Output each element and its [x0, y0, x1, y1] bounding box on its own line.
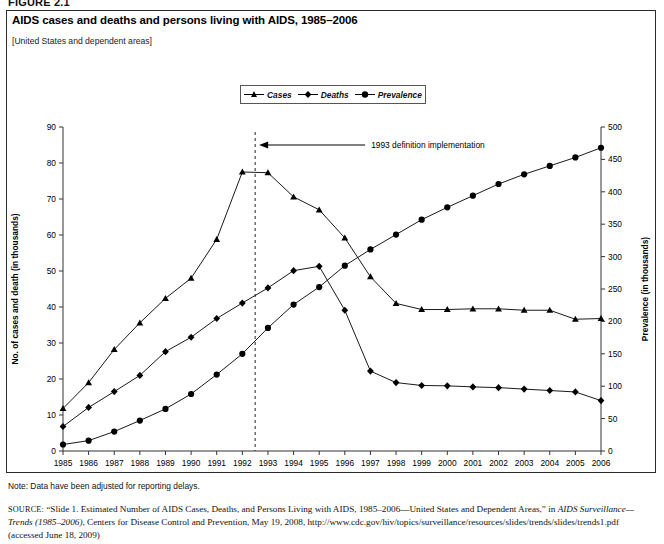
x-axis-tick-label: 1989	[156, 458, 175, 468]
data-point-deaths	[572, 388, 579, 395]
x-axis-tick-label: 1996	[335, 458, 354, 468]
data-point-deaths	[290, 267, 297, 274]
x-axis-tick-label: 2004	[540, 458, 559, 468]
x-axis-tick-label: 1995	[310, 458, 329, 468]
data-point-deaths	[367, 367, 374, 374]
chart-note: Note: Data have been adjusted for report…	[8, 481, 200, 491]
y2-axis-tick-label: 150	[608, 349, 622, 359]
y-axis-tick-label: 40	[47, 302, 57, 312]
y-axis-tick-label: 80	[47, 158, 57, 168]
source-label: SOURCE:	[8, 505, 44, 514]
data-point-deaths	[85, 404, 92, 411]
x-axis-tick-label: 1997	[361, 458, 380, 468]
chart-plot-area: 0102030405060708090050100150200250300350…	[0, 0, 664, 473]
data-point-prevalence	[111, 428, 117, 434]
y2-axis-tick-label: 500	[608, 122, 622, 132]
y2-axis-tick-label: 400	[608, 187, 622, 197]
data-point-prevalence	[367, 246, 373, 252]
x-axis-tick-label: 1992	[233, 458, 252, 468]
data-point-deaths	[418, 382, 425, 389]
source-text-part1: “Slide 1. Estimated Number of AIDS Cases…	[44, 504, 558, 514]
chart-svg: 0102030405060708090050100150200250300350…	[0, 0, 664, 473]
data-point-prevalence	[316, 284, 322, 290]
data-point-prevalence	[162, 406, 168, 412]
data-point-cases	[188, 275, 195, 281]
data-point-cases	[316, 206, 323, 212]
data-point-prevalence	[470, 193, 476, 199]
data-point-deaths	[239, 299, 246, 306]
data-point-prevalence	[598, 145, 604, 151]
data-point-deaths	[60, 423, 67, 430]
x-axis-tick-label: 2006	[592, 458, 611, 468]
data-point-prevalence	[444, 204, 450, 210]
data-point-prevalence	[290, 301, 296, 307]
data-point-deaths	[265, 284, 272, 291]
data-point-cases	[367, 273, 374, 279]
data-point-prevalence	[265, 325, 271, 331]
y-axis-tick-label: 60	[47, 230, 57, 240]
data-point-prevalence	[572, 154, 578, 160]
series-line-deaths	[63, 266, 601, 426]
y-axis-tick-label: 10	[47, 410, 57, 420]
data-point-prevalence	[86, 438, 92, 444]
data-point-deaths	[393, 379, 400, 386]
x-axis-tick-label: 2005	[566, 458, 585, 468]
data-point-prevalence	[342, 263, 348, 269]
figure-page: FIGURE 2.1 AIDS cases and deaths and per…	[0, 0, 664, 544]
data-point-prevalence	[188, 391, 194, 397]
x-axis-tick-label: 2003	[515, 458, 534, 468]
y2-axis-tick-label: 250	[608, 284, 622, 294]
data-point-deaths	[598, 397, 605, 404]
data-point-prevalence	[239, 351, 245, 357]
x-axis-tick-label: 1986	[79, 458, 98, 468]
source-text-part2: , Centers for Disease Control and Preven…	[8, 517, 619, 539]
y-axis-tick-label: 90	[47, 122, 57, 132]
series-line-prevalence	[63, 148, 601, 445]
x-axis-tick-label: 1985	[54, 458, 73, 468]
data-point-deaths	[316, 263, 323, 270]
y2-axis-tick-label: 300	[608, 252, 622, 262]
x-axis-tick-label: 2000	[438, 458, 457, 468]
data-point-prevalence	[419, 217, 425, 223]
data-point-cases	[213, 236, 220, 242]
data-point-deaths	[111, 388, 118, 395]
data-point-deaths	[495, 384, 502, 391]
data-point-deaths	[188, 334, 195, 341]
x-axis-tick-label: 2002	[489, 458, 508, 468]
data-point-prevalence	[547, 163, 553, 169]
y-axis-tick-label: 70	[47, 194, 57, 204]
y-axis-title: No. of cases and death (in thousands)	[10, 213, 20, 364]
x-axis-tick-label: 1993	[259, 458, 278, 468]
x-axis-tick-label: 2001	[464, 458, 483, 468]
y-axis-tick-label: 50	[47, 266, 57, 276]
y2-axis-tick-label: 100	[608, 381, 622, 391]
annotation-arrow-head	[259, 142, 268, 149]
data-point-prevalence	[393, 231, 399, 237]
y2-axis-tick-label: 200	[608, 316, 622, 326]
data-point-deaths	[213, 315, 220, 322]
y2-axis-tick-label: 50	[608, 414, 618, 424]
data-point-deaths	[546, 387, 553, 394]
y2-axis-tick-label: 450	[608, 154, 622, 164]
y-axis-tick-label: 30	[47, 338, 57, 348]
x-axis-tick-label: 1994	[284, 458, 303, 468]
data-point-deaths	[470, 383, 477, 390]
x-axis-tick-label: 1999	[412, 458, 431, 468]
data-point-deaths	[341, 307, 348, 314]
data-point-prevalence	[137, 417, 143, 423]
annotation-label: 1993 definition implementation	[371, 140, 485, 150]
data-point-prevalence	[214, 371, 220, 377]
y-axis-tick-label: 0	[51, 446, 56, 456]
x-axis-tick-label: 1998	[387, 458, 406, 468]
x-axis-tick-label: 1991	[207, 458, 226, 468]
x-axis-tick-label: 1988	[131, 458, 150, 468]
y2-axis-tick-label: 350	[608, 219, 622, 229]
data-point-prevalence	[60, 441, 66, 447]
series-line-cases	[63, 172, 601, 409]
y-axis-tick-label: 20	[47, 374, 57, 384]
x-axis-tick-label: 1990	[182, 458, 201, 468]
x-axis-tick-label: 1987	[105, 458, 124, 468]
data-point-prevalence	[521, 171, 527, 177]
y2-axis-title: Prevalence (in thousands)	[640, 237, 650, 341]
chart-source: SOURCE: “Slide 1. Estimated Number of AI…	[8, 503, 656, 541]
